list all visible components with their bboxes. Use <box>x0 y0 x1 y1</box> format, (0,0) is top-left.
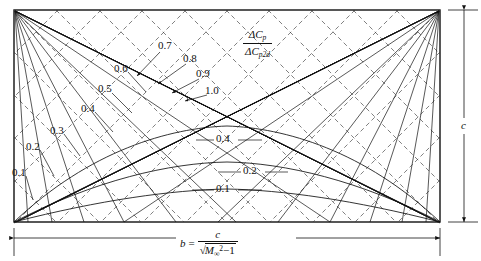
contour-ray-0.3 <box>15 11 84 222</box>
quantity-ratio-label: ΔCp ΔCp2d <box>243 28 272 59</box>
contour-ray-0.5 <box>15 11 176 222</box>
contour-label-0-4: 0.4 <box>81 103 95 114</box>
contour-label-1-0: 1.0 <box>205 85 219 96</box>
equals-sign: = <box>189 238 195 249</box>
fraction-bar-span <box>198 241 238 242</box>
contour-label-0-9: 0.9 <box>196 68 210 79</box>
contour-ray-0.1 <box>15 11 28 222</box>
span-fraction: c √M∞2−1 <box>198 228 238 258</box>
quantity-numerator: ΔCp <box>243 28 272 42</box>
span-formula: b = c √M∞2−1 <box>180 228 238 258</box>
span-symbol: b <box>180 238 186 249</box>
leader-lines <box>26 52 288 200</box>
chord-dim-label: c <box>461 120 466 131</box>
contour-ray-0.4 <box>15 11 124 222</box>
quantity-denominator: ΔCp2d <box>243 45 272 59</box>
leader-0.2 <box>40 150 54 176</box>
span-denominator: √M∞2−1 <box>198 243 238 258</box>
leader-0.9 <box>172 79 199 93</box>
contour-label-0-2: 0.2 <box>26 141 40 152</box>
fraction-bar-quantity <box>243 43 272 44</box>
contour-label-0-6: 0.6 <box>114 63 128 74</box>
contour-label-0-1: 0.1 <box>12 167 26 178</box>
leader-0.3 <box>64 134 80 156</box>
leader-1.0 <box>185 95 207 101</box>
contour-ray-0.2 <box>15 11 52 222</box>
arc-label-0-4: 0.4 <box>216 133 230 144</box>
contour-label-0-7: 0.7 <box>158 40 172 51</box>
span-numerator: c <box>198 228 238 240</box>
arc-label-0-2: 0.2 <box>243 165 257 176</box>
contour-label-0-8: 0.8 <box>183 53 197 64</box>
contour-label-0-3: 0.3 <box>50 125 64 136</box>
dimension-chord-c <box>448 10 478 222</box>
contour-ray-aux2 <box>15 11 415 210</box>
leader-0.8 <box>158 64 186 84</box>
leader-0.4 <box>95 112 113 132</box>
contour-label-0-5: 0.5 <box>98 83 112 94</box>
leader-0.5 <box>112 93 132 113</box>
figure-canvas <box>0 0 481 261</box>
contour-ray-aux3 <box>15 11 330 222</box>
leader-0.1 <box>26 176 33 200</box>
arc-label-0-1: 0.1 <box>216 183 230 194</box>
